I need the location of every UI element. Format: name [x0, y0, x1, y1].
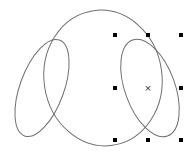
drawing-canvas[interactable]: × [0, 0, 192, 158]
resize-handle-top-left[interactable] [113, 33, 117, 37]
left-ellipse[interactable] [4, 33, 80, 144]
resize-handle-top-middle[interactable] [146, 33, 150, 37]
center-marker-icon[interactable]: × [144, 83, 152, 93]
resize-handle-top-right[interactable] [179, 33, 183, 37]
resize-handle-middle-left[interactable] [113, 86, 117, 90]
large-circle-ellipse[interactable] [35, 2, 171, 153]
resize-handle-bottom-middle[interactable] [146, 138, 150, 142]
resize-handle-bottom-right[interactable] [179, 138, 183, 142]
shapes-layer [4, 2, 191, 153]
resize-handle-bottom-left[interactable] [113, 138, 117, 142]
resize-handle-middle-right[interactable] [179, 86, 183, 90]
